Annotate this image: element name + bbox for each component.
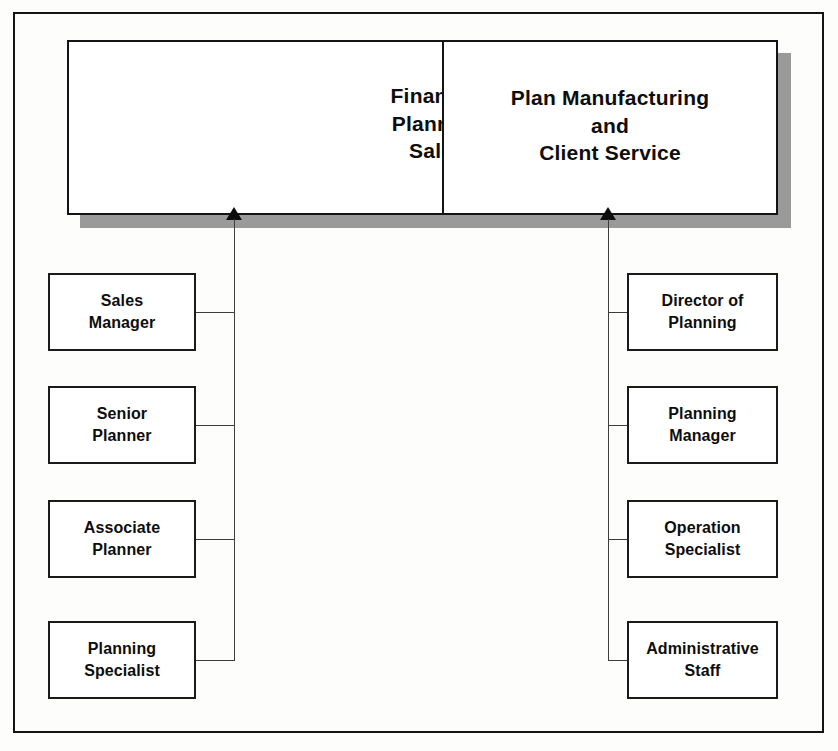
unit-box-director-of-planning[interactable]: Director of Planning	[627, 273, 778, 351]
unit-box-sales-manager[interactable]: Sales Manager	[48, 273, 196, 351]
unit-label-associate-planner: Associate Planner	[84, 517, 161, 561]
unit-label-operation-specialist: Operation Specialist	[664, 517, 740, 561]
branch-line-sales-manager	[196, 312, 234, 313]
branch-line-planning-specialist	[196, 660, 234, 661]
unit-label-planning-manager: Planning Manager	[668, 403, 736, 447]
unit-box-planning-manager[interactable]: Planning Manager	[627, 386, 778, 464]
org-chart-diagram: Financial Planning Sales Sales Manager S…	[0, 0, 838, 751]
unit-label-administrative-staff: Administrative Staff	[646, 638, 759, 682]
trunk-line-right	[608, 219, 609, 661]
unit-label-director-of-planning: Director of Planning	[662, 290, 744, 334]
branch-line-administrative-staff	[608, 660, 627, 661]
unit-label-senior-planner: Senior Planner	[92, 403, 151, 447]
branch-line-associate-planner	[196, 539, 234, 540]
unit-box-operation-specialist[interactable]: Operation Specialist	[627, 500, 778, 578]
header-label-plan-manufacturing-client-service: Plan Manufacturing and Client Service	[444, 84, 776, 167]
unit-label-sales-manager: Sales Manager	[89, 290, 156, 334]
trunk-line-left	[234, 219, 235, 661]
branch-line-operation-specialist	[608, 539, 627, 540]
unit-box-administrative-staff[interactable]: Administrative Staff	[627, 621, 778, 699]
branch-line-senior-planner	[196, 425, 234, 426]
unit-label-planning-specialist: Planning Specialist	[84, 638, 160, 682]
branch-line-planning-manager	[608, 425, 627, 426]
branch-line-director-of-planning	[608, 312, 627, 313]
unit-box-senior-planner[interactable]: Senior Planner	[48, 386, 196, 464]
unit-box-planning-specialist[interactable]: Planning Specialist	[48, 621, 196, 699]
unit-box-associate-planner[interactable]: Associate Planner	[48, 500, 196, 578]
header-box-plan-manufacturing-client-service[interactable]: Plan Manufacturing and Client Service	[442, 40, 778, 215]
